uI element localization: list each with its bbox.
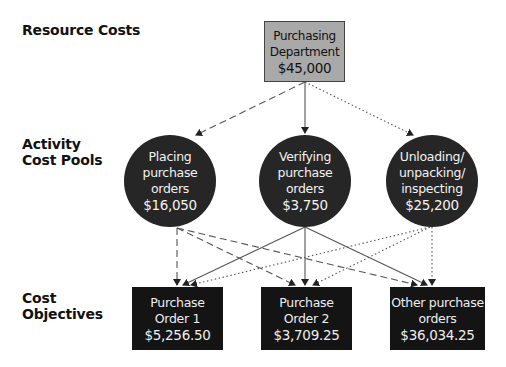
resource-node-purchasing-department: Purchasing Department $45,000 [264,21,345,82]
node-label: Verifying [279,149,331,165]
dotted-arrow [313,227,430,285]
pool-node-placing-purchase-orders: Placing purchase orders $16,050 [124,135,216,227]
node-amount: $5,256.50 [144,327,210,343]
node-label: purchase [278,165,333,181]
node-label: Order 2 [284,311,329,327]
node-label: Placing [149,149,192,165]
objective-node-purchase-order-2: Purchase Order 2 $3,709.25 [261,287,352,350]
dotted-arrow [191,227,430,285]
objective-node-other-purchase-orders: Other purchase orders $36,034.25 [390,287,485,350]
pool-node-unloading-unpacking-inspecting: Unloading/ unpacking/ inspecting $25,200 [386,135,478,227]
node-amount: $16,050 [143,197,197,213]
dashed-arrow [196,82,305,135]
node-label: inspecting [401,181,463,197]
node-label: unpacking/ [399,165,465,181]
node-label: Purchasing [273,28,336,44]
node-label: orders [418,311,456,327]
node-label: orders [151,181,189,197]
solid-arrow [305,227,427,285]
node-amount: $45,000 [278,60,332,76]
solid-arrow [183,227,305,285]
node-label: Purchase [279,295,333,311]
dashed-arrow [177,228,295,285]
objective-node-purchase-order-1: Purchase Order 1 $5,256.50 [132,287,223,350]
dashed-arrow [177,228,417,285]
node-amount: $36,034.25 [400,327,474,343]
node-label: Purchase [150,295,204,311]
node-amount: $3,750 [282,197,327,213]
node-label: Order 1 [155,311,200,327]
node-amount: $25,200 [405,197,459,213]
node-label: purchase [143,165,198,181]
node-label: Unloading/ [400,149,464,165]
node-label: Other purchase [391,295,484,311]
dotted-arrow [305,82,413,135]
node-amount: $3,709.25 [273,327,339,343]
pool-node-verifying-purchase-orders: Verifying purchase orders $3,750 [259,135,351,227]
node-label: Department [270,44,340,60]
node-label: orders [286,181,324,197]
